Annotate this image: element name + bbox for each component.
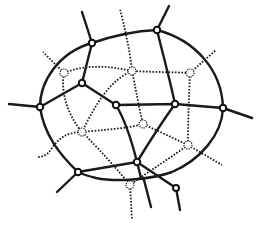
solid-edge [223,108,252,118]
solid-edge [116,105,137,162]
solid-node [79,80,85,86]
solid-edge [157,30,175,104]
hollow-node [128,67,136,75]
dotted-edge [188,73,190,145]
solid-node [134,159,140,165]
dotted-edge [82,124,143,132]
hollow-node [184,141,192,149]
dotted-edge [64,67,190,73]
solid-edge [82,43,92,83]
solid-edge [57,172,78,192]
solid-node [172,101,178,107]
solid-node [89,40,95,46]
solid-network [9,6,252,210]
solid-node [220,105,226,111]
dotted-edge [132,71,143,124]
solid-edge [40,83,82,107]
solid-node [173,185,179,191]
solid-edge [9,104,40,107]
network-diagram [0,0,270,227]
hollow-node [186,69,194,77]
solid-edge [137,162,176,188]
hollow-node [78,128,86,136]
dotted-edge [120,9,132,71]
solid-edge [82,12,92,43]
solid-edge [116,104,223,108]
hollow-node [126,181,134,189]
solid-node [113,102,119,108]
solid-edge [137,104,175,162]
solid-edge [78,162,137,172]
dotted-edge [130,185,132,220]
hollow-node [60,69,68,77]
hollow-node [139,120,147,128]
solid-node [37,104,43,110]
solid-node [154,27,160,33]
solid-node [75,169,81,175]
